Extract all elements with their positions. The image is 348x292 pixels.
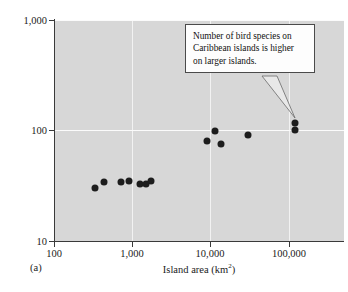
- data-point: [291, 127, 298, 134]
- y-tick-1000: [49, 20, 54, 21]
- annotation-line-3: on larger islands.: [193, 55, 308, 67]
- figure-panel-a: 1,000 100 10 100 1,000 10,000 100,000 Nu…: [0, 0, 348, 292]
- x-tick-label-100000: 100,000: [272, 248, 306, 259]
- x-tick-10000: [210, 242, 211, 247]
- x-tick-100000: [289, 242, 290, 247]
- data-point: [91, 185, 98, 192]
- data-point: [125, 177, 132, 184]
- x-tick-label-1000: 1,000: [120, 248, 144, 259]
- y-tick-100: [49, 130, 54, 131]
- y-tick-label-1000: 1,000: [23, 15, 47, 26]
- data-point: [217, 141, 224, 148]
- data-point: [244, 131, 251, 138]
- panel-label: (a): [30, 262, 42, 273]
- x-tick-label-100: 100: [46, 248, 62, 259]
- x-axis-title: Island area (km2): [163, 262, 235, 275]
- data-point: [212, 128, 219, 135]
- gridline-y-1000: [54, 20, 344, 21]
- data-point: [148, 177, 155, 184]
- data-point: [291, 119, 298, 126]
- x-axis-title-prefix: Island area (km: [163, 264, 228, 275]
- x-tick-100: [54, 242, 55, 247]
- data-point: [118, 179, 125, 186]
- x-axis-title-suffix: ): [232, 264, 236, 275]
- x-axis-line: [54, 241, 344, 242]
- annotation-callout: Number of bird species on Caribbean isla…: [185, 24, 315, 73]
- data-point: [101, 179, 108, 186]
- data-point: [204, 137, 211, 144]
- gridline-y-100: [54, 130, 344, 131]
- y-axis-line: [54, 19, 55, 242]
- x-tick-1000: [132, 242, 133, 247]
- x-tick-label-10000: 10,000: [196, 248, 225, 259]
- annotation-line-1: Number of bird species on: [193, 30, 308, 42]
- y-tick-label-10: 10: [37, 236, 48, 247]
- y-tick-label-100: 100: [31, 125, 47, 136]
- annotation-line-2: Caribbean islands is higher: [193, 42, 308, 54]
